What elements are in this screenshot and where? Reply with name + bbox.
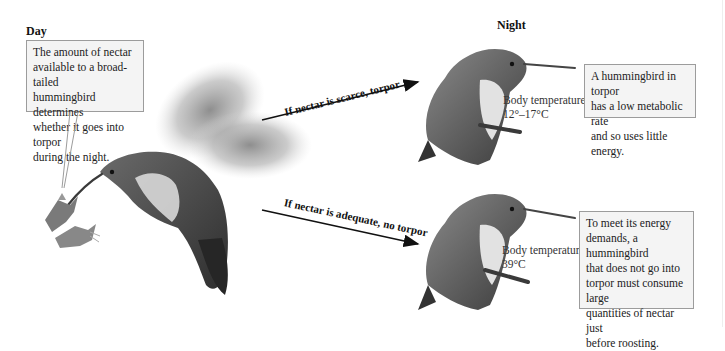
no-torpor-body-temperature: Body temperature 39°C bbox=[502, 243, 585, 271]
hovering-hummingbird-icon bbox=[68, 41, 312, 295]
torpor-callout-line: and so uses little energy. bbox=[591, 129, 689, 159]
no-torpor-callout-line: quantities of nectar just bbox=[586, 306, 687, 336]
day-callout-pointer bbox=[62, 112, 78, 188]
torpor-callout-line: A hummingbird in torpor bbox=[591, 69, 689, 99]
no-torpor-callout-line: before roosting. bbox=[586, 336, 687, 351]
no-torpor-callout-line: torpor must consume large bbox=[586, 276, 687, 306]
no-torpor-callout-line: To meet its energy bbox=[586, 216, 687, 231]
body-temperature-label: Body temperature bbox=[503, 93, 586, 107]
torpor-callout: A hummingbird in torpor has a low metabo… bbox=[584, 64, 696, 118]
body-temperature-label: Body temperature bbox=[502, 243, 585, 257]
torpor-body-temperature: Body temperature 12°–17°C bbox=[503, 93, 586, 121]
no-torpor-callout-line: that does not go into bbox=[586, 261, 687, 276]
page-edge-divider bbox=[722, 0, 723, 327]
night-heading: Night bbox=[497, 18, 526, 33]
no-torpor-callout-line: demands, a hummingbird bbox=[586, 231, 687, 261]
torpor-callout-line: has a low metabolic rate bbox=[591, 99, 689, 129]
no-torpor-callout: To meet its energy demands, a hummingbir… bbox=[579, 211, 694, 309]
body-temperature-value: 12°–17°C bbox=[503, 107, 586, 121]
body-temperature-value: 39°C bbox=[502, 257, 585, 271]
